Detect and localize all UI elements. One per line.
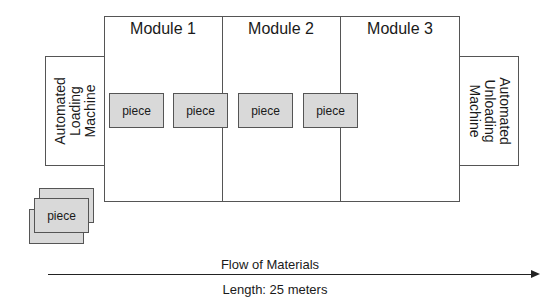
module-1-title: Module 1 (104, 20, 222, 38)
flow-arrow-line (48, 274, 534, 275)
loading-line-1: Automated (53, 77, 68, 145)
automated-loading-machine: Automated Loading Machine (45, 56, 105, 166)
arrow-right-icon (531, 270, 540, 278)
module-3-title: Module 3 (340, 20, 460, 38)
stack-piece-front: piece (34, 198, 89, 233)
piece-4: piece (303, 93, 358, 128)
automated-unloading-machine: Automated Unloading Machine (459, 56, 519, 166)
unloading-line-1: Automated (497, 77, 512, 145)
flow-label: Flow of Materials (180, 257, 360, 272)
piece-2: piece (173, 93, 228, 128)
loading-line-2: Loading (68, 77, 83, 145)
piece-1: piece (109, 93, 164, 128)
unloading-line-3: Machine (467, 77, 482, 145)
unloading-line-2: Unloading (482, 77, 497, 145)
loading-line-3: Machine (83, 77, 98, 145)
loading-machine-label: Automated Loading Machine (53, 77, 98, 145)
length-label: Length: 25 meters (180, 282, 370, 297)
unloading-machine-label: Automated Unloading Machine (467, 77, 512, 145)
piece-3: piece (238, 93, 293, 128)
module-2-title: Module 2 (222, 20, 340, 38)
